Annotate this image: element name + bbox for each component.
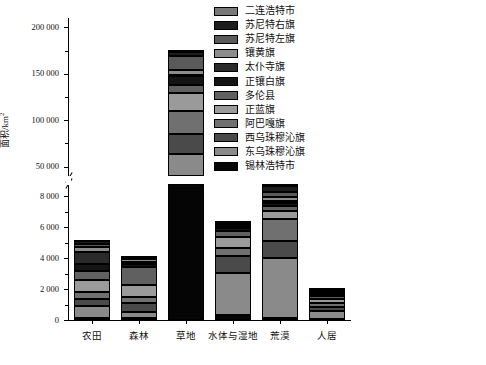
bar-segment[interactable] (121, 262, 157, 264)
legend-label: 二连浩特市 (245, 6, 295, 16)
chart-figure: 面积/km2 02 0004 0006 0008 00050 000100 00… (0, 0, 486, 365)
bar-segment[interactable] (262, 184, 298, 186)
bar-segment[interactable] (168, 154, 204, 176)
legend-item[interactable]: 苏尼特左旗 (214, 32, 482, 46)
legend-swatch (214, 49, 238, 58)
bar-segment[interactable] (74, 264, 110, 271)
legend-item[interactable]: 正镶白旗 (214, 74, 482, 88)
bar-segment[interactable] (168, 50, 204, 52)
bar-segment[interactable] (168, 93, 204, 111)
legend-item[interactable]: 二连浩特市 (214, 4, 482, 18)
bar-segment[interactable] (74, 306, 110, 318)
legend-label: 锡林浩特市 (245, 161, 295, 171)
bar-segment[interactable] (309, 296, 345, 298)
bar-segment[interactable] (121, 312, 157, 318)
bar-segment[interactable] (74, 247, 110, 253)
legend-swatch (214, 77, 238, 86)
legend-label: 苏尼特右旗 (245, 20, 295, 30)
legend-swatch (214, 21, 238, 30)
x-axis-tick (327, 320, 328, 324)
legend-swatch (214, 105, 238, 114)
bar-segment[interactable] (168, 75, 204, 77)
bar-segment[interactable] (262, 201, 298, 203)
bar-segment[interactable] (215, 221, 251, 223)
bar-segment[interactable] (309, 299, 345, 304)
legend-label: 镶黄旗 (245, 48, 275, 58)
bar-segment[interactable] (121, 256, 157, 258)
bar-segment[interactable] (262, 203, 298, 206)
bar-segment[interactable] (309, 292, 345, 294)
legend-item[interactable]: 阿巴嘎旗 (214, 117, 482, 131)
bar-segment[interactable] (215, 226, 251, 228)
bar-segment[interactable] (215, 256, 251, 273)
bar-segment[interactable] (168, 134, 204, 154)
legend-item[interactable]: 多伦县 (214, 89, 482, 103)
y-axis-tick-label: 4 000 (40, 254, 59, 263)
bar-segment[interactable] (215, 273, 251, 315)
bar-segment[interactable] (74, 241, 110, 244)
bar-segment[interactable] (309, 288, 345, 290)
bar-segment[interactable] (168, 76, 204, 85)
bar-segment[interactable] (215, 231, 251, 238)
bar-segment[interactable] (74, 299, 110, 306)
bar-segment[interactable] (121, 264, 157, 267)
bar-segment[interactable] (262, 258, 298, 318)
y-axis-tick-label: 100 000 (31, 116, 59, 125)
bar-segment[interactable] (121, 297, 157, 303)
legend-item[interactable]: 苏尼特右旗 (214, 18, 482, 32)
bar-segment[interactable] (262, 211, 298, 219)
bar-segment[interactable] (262, 192, 298, 197)
bar-segment[interactable] (168, 56, 204, 70)
legend-swatch (214, 119, 238, 128)
bar-segment[interactable] (74, 292, 110, 299)
bar-segment[interactable] (74, 252, 110, 264)
y-axis-tick-label: 50 000 (36, 162, 59, 171)
bar-segment[interactable] (168, 52, 204, 56)
legend-item[interactable]: 镶黄旗 (214, 46, 482, 60)
legend-swatch (214, 7, 238, 16)
bar-segment[interactable] (215, 237, 251, 248)
legend-item[interactable]: 西乌珠穆沁旗 (214, 131, 482, 145)
x-axis-tick (280, 320, 281, 324)
bar-segment[interactable] (74, 271, 110, 281)
bar-segment[interactable] (168, 184, 204, 320)
bar-segment[interactable] (121, 267, 157, 285)
bar-segment[interactable] (262, 197, 298, 201)
axis-break-band (68, 176, 350, 184)
legend-label: 阿巴嘎旗 (245, 119, 285, 129)
legend-swatch (214, 162, 238, 171)
bar-segment[interactable] (262, 186, 298, 192)
y-axis-tick-labels: 02 0004 0006 0008 00050 000100 000150 00… (0, 18, 68, 320)
x-axis-tick (233, 320, 234, 324)
bar-segment[interactable] (74, 280, 110, 292)
y-axis-tick-label: 2 000 (40, 285, 59, 294)
bar-segment[interactable] (121, 285, 157, 298)
bar-segment[interactable] (309, 307, 345, 311)
legend-item[interactable]: 正蓝旗 (214, 103, 482, 117)
bar-segment[interactable] (262, 219, 298, 241)
bar-segment[interactable] (168, 111, 204, 135)
bar-segment[interactable] (215, 248, 251, 256)
bar-segment[interactable] (309, 294, 345, 296)
legend-swatch (214, 91, 238, 100)
bar-segment[interactable] (74, 244, 110, 246)
bar-segment[interactable] (309, 311, 345, 319)
legend: 二连浩特市苏尼特右旗苏尼特左旗镶黄旗太仆寺旗正镶白旗多伦县正蓝旗阿巴嘎旗西乌珠穆… (214, 4, 482, 173)
bar-segment[interactable] (168, 70, 204, 75)
legend-swatch (214, 35, 238, 44)
bar-segment[interactable] (309, 303, 345, 307)
x-axis-tick (186, 320, 187, 324)
legend-swatch (214, 133, 238, 142)
legend-label: 多伦县 (245, 91, 275, 101)
bar-segment[interactable] (168, 85, 204, 92)
bar-segment[interactable] (74, 240, 110, 242)
legend-item[interactable]: 东乌珠穆沁旗 (214, 145, 482, 159)
legend-swatch (214, 63, 238, 72)
bar-segment[interactable] (215, 228, 251, 231)
bar-segment[interactable] (121, 303, 157, 312)
legend-item[interactable]: 锡林浩特市 (214, 159, 482, 173)
bar-segment[interactable] (262, 241, 298, 257)
legend-label: 东乌珠穆沁旗 (245, 147, 305, 157)
bar-segment[interactable] (262, 206, 298, 211)
legend-item[interactable]: 太仆寺旗 (214, 60, 482, 74)
